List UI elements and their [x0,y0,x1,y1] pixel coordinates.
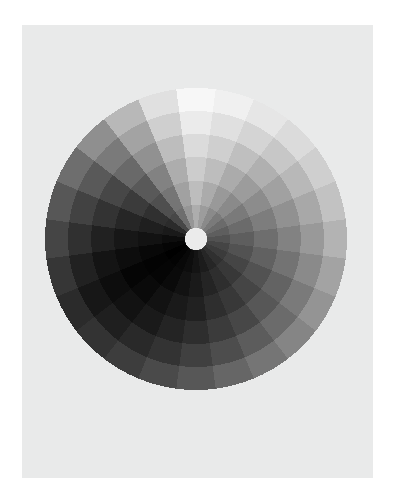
sector-cell [45,219,69,258]
sector-cell [323,219,347,258]
sector-cell [277,225,301,252]
center-hole [185,228,207,250]
polar-sunburst-chart [0,0,393,501]
sector-cell [182,320,209,344]
sector-cell [68,222,92,255]
sector-cell [254,228,278,249]
sector-cell [179,343,212,367]
sector-cell [185,297,206,321]
sector-cell [185,157,206,181]
sector-cell [179,111,212,135]
figure-container [0,0,393,501]
sector-cell [182,134,209,158]
sector-cell [114,228,138,249]
sector-cell [176,366,215,390]
sector-cell [176,88,215,112]
sector-cell [91,225,115,252]
sector-cell [300,222,324,255]
